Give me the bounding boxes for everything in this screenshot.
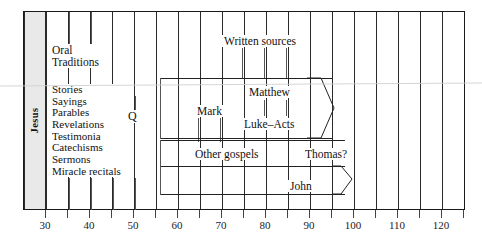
axis-label-40: 40 xyxy=(84,219,95,231)
gridline-115 xyxy=(420,12,421,209)
axis-label-60: 60 xyxy=(172,219,183,231)
luke-acts-label: Luke–Acts xyxy=(242,118,296,130)
axis-label-120: 120 xyxy=(433,219,450,231)
spur-genres-b xyxy=(91,178,92,210)
spur-written-b xyxy=(264,48,265,78)
mark-label: Mark xyxy=(195,105,224,117)
cap-other-left xyxy=(160,140,161,167)
axis-tick-major xyxy=(133,210,134,218)
axis-tick-major xyxy=(397,210,398,218)
axis-tick-minor xyxy=(331,210,332,218)
axis-label-110: 110 xyxy=(389,219,405,231)
spur-matthew-a xyxy=(264,100,265,116)
axis-tick-major xyxy=(177,210,178,218)
gridline-110 xyxy=(398,12,399,209)
axis-label-70: 70 xyxy=(216,219,227,231)
genre-list: Stories Sayings Parables Revelations Tes… xyxy=(50,84,123,177)
connector-john-top xyxy=(160,166,345,167)
axis-tick-major xyxy=(309,210,310,218)
axis-tick-minor xyxy=(243,210,244,218)
axis-tick-minor xyxy=(463,210,464,218)
genre-item: Revelations xyxy=(52,119,121,131)
gridline-60 xyxy=(178,12,179,209)
genre-item: Miracle recitals xyxy=(52,166,121,178)
gridline-105 xyxy=(376,12,377,209)
john-label: John xyxy=(288,180,314,192)
axis-tick-minor xyxy=(199,210,200,218)
spur-genres-c xyxy=(113,178,114,210)
connector-john-bottom xyxy=(160,194,345,195)
oral-traditions-label: Oral Traditions xyxy=(50,44,101,68)
jesus-label-text: Jesus xyxy=(30,107,41,133)
written-sources-label: Written sources xyxy=(222,35,298,47)
axis-label-90: 90 xyxy=(304,219,315,231)
cap-written-left xyxy=(160,78,161,139)
gridline-30 xyxy=(46,12,47,209)
spur-genres-a xyxy=(69,178,70,210)
axis-tick-minor xyxy=(287,210,288,218)
cap-john-left xyxy=(160,166,161,195)
axis-label-30: 30 xyxy=(40,219,51,231)
genre-item: Sermons xyxy=(52,154,121,166)
axis-tick-major xyxy=(265,210,266,218)
jesus-label: Jesus xyxy=(24,90,46,150)
axis-tick-major xyxy=(353,210,354,218)
thomas-label: Thomas? xyxy=(303,148,349,160)
other-gospels-label: Other gospels xyxy=(193,148,261,160)
axis-tick-minor xyxy=(375,210,376,218)
timeline-diagram: Jesus Oral Traditions Stories Sayings P xyxy=(0,0,482,250)
timeline-axis: 30 40 50 60 70 80 90 100 110 120 xyxy=(23,210,465,240)
matthew-label: Matthew xyxy=(247,86,292,98)
axis-tick-major xyxy=(441,210,442,218)
axis-label-50: 50 xyxy=(128,219,139,231)
axis-tick-minor xyxy=(111,210,112,218)
q-source-label: Q xyxy=(126,110,139,123)
arrow-john xyxy=(333,162,359,200)
oral-line-1: Oral xyxy=(52,44,99,56)
gridline-55 xyxy=(156,12,157,209)
axis-tick-major xyxy=(45,210,46,218)
axis-tick-minor xyxy=(155,210,156,218)
axis-tick-minor xyxy=(67,210,68,218)
axis-label-100: 100 xyxy=(345,219,362,231)
spur-oral-left xyxy=(69,12,70,44)
spur-written-a xyxy=(242,48,243,78)
spur-genres-d xyxy=(135,178,136,210)
spur-oral-mid xyxy=(91,12,92,44)
spur-matthew-b xyxy=(286,100,287,116)
gridline-120 xyxy=(442,12,443,209)
spur-written-c xyxy=(286,48,287,78)
axis-label-80: 80 xyxy=(260,219,271,231)
axis-tick-major xyxy=(221,210,222,218)
axis-tick-minor xyxy=(419,210,420,218)
axis-tick-major xyxy=(89,210,90,218)
oral-line-2: Traditions xyxy=(52,56,99,68)
